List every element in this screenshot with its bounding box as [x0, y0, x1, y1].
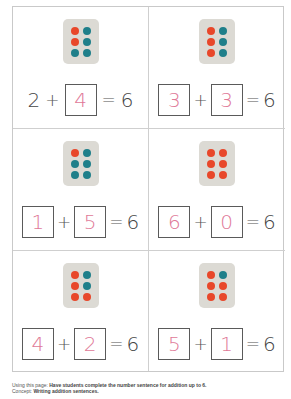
flashcard-grid: 2 + 4 = 6 3 + 3 = 6 — [12, 6, 284, 372]
dot — [207, 149, 215, 157]
die-six-dots — [63, 263, 99, 308]
dot — [83, 149, 91, 157]
dot — [71, 149, 79, 157]
answer-box-addend-1[interactable]: 1 — [22, 206, 54, 238]
plus-sign: + — [193, 214, 207, 231]
dot — [71, 160, 79, 168]
equals-sign: = — [246, 214, 260, 231]
dot — [83, 282, 91, 290]
answer-box-addend-2[interactable]: 2 — [74, 328, 106, 360]
sum: 6 — [263, 334, 276, 354]
dot — [71, 27, 79, 35]
answer-box-addend-1[interactable]: 5 — [158, 328, 190, 360]
plus-sign: + — [193, 92, 207, 109]
number-sentence: 4 + 2 = 6 — [13, 327, 148, 361]
equals-sign: = — [246, 336, 260, 353]
die-six-dots — [199, 141, 235, 186]
dot — [207, 49, 215, 57]
equals-sign: = — [109, 214, 123, 231]
equals-sign: = — [109, 336, 123, 353]
die-six-dots — [199, 19, 235, 64]
teacher-notes: Using this page: Have students complete … — [12, 382, 207, 394]
dot — [71, 38, 79, 46]
die-six-dots — [63, 19, 99, 64]
answer-box-addend-2[interactable]: 0 — [211, 206, 243, 238]
card-6-plus-0: 6 + 0 = 6 — [149, 129, 285, 251]
dot — [83, 38, 91, 46]
sum: 6 — [126, 212, 139, 232]
number-sentence: 2 + 4 = 6 — [13, 83, 148, 117]
dot — [207, 282, 215, 290]
addend-1: 2 — [28, 90, 41, 110]
answer-box-addend-1[interactable]: 4 — [22, 328, 54, 360]
equals-sign: = — [102, 92, 116, 109]
card-3-plus-3: 3 + 3 = 6 — [149, 7, 285, 129]
card-1-plus-5: 1 + 5 = 6 — [13, 129, 149, 251]
dot — [83, 271, 91, 279]
answer-box-addend-2[interactable]: 3 — [211, 84, 243, 116]
dot — [71, 271, 79, 279]
dot — [219, 160, 227, 168]
die-six-dots — [199, 263, 235, 308]
dot — [71, 171, 79, 179]
number-sentence: 6 + 0 = 6 — [149, 205, 285, 239]
dot — [219, 49, 227, 57]
answer-box-addend-1[interactable]: 6 — [158, 206, 190, 238]
plus-sign: + — [57, 214, 71, 231]
dot — [83, 293, 91, 301]
dot — [83, 27, 91, 35]
answer-box-addend-2[interactable]: 4 — [65, 84, 97, 116]
dot — [83, 160, 91, 168]
dot — [83, 171, 91, 179]
dot — [219, 149, 227, 157]
dot — [219, 38, 227, 46]
sum: 6 — [126, 334, 139, 354]
dot — [207, 27, 215, 35]
equals-sign: = — [246, 92, 260, 109]
dot — [207, 271, 215, 279]
concept-label: Concept: — [12, 388, 32, 394]
die-six-dots — [63, 141, 99, 186]
dot — [219, 293, 227, 301]
card-4-plus-2: 4 + 2 = 6 — [13, 251, 149, 371]
sum: 6 — [263, 212, 276, 232]
sum: 6 — [121, 90, 134, 110]
dot — [207, 160, 215, 168]
dot — [207, 293, 215, 301]
answer-box-addend-2[interactable]: 5 — [74, 206, 106, 238]
concept-text: Writing addition sentences. — [33, 388, 98, 394]
dot — [83, 49, 91, 57]
number-sentence: 3 + 3 = 6 — [149, 83, 285, 117]
dot — [71, 49, 79, 57]
dot — [219, 271, 227, 279]
dot — [207, 38, 215, 46]
plus-sign: + — [57, 336, 71, 353]
dot — [219, 171, 227, 179]
card-2-plus-4: 2 + 4 = 6 — [13, 7, 149, 129]
dot — [71, 293, 79, 301]
dot — [219, 27, 227, 35]
answer-box-addend-2[interactable]: 1 — [211, 328, 243, 360]
answer-box-addend-1[interactable]: 3 — [158, 84, 190, 116]
plus-sign: + — [45, 92, 59, 109]
dot — [71, 282, 79, 290]
number-sentence: 1 + 5 = 6 — [13, 205, 148, 239]
plus-sign: + — [193, 336, 207, 353]
sum: 6 — [263, 90, 276, 110]
concept-note: Concept: Writing addition sentences. — [12, 388, 207, 394]
card-5-plus-1: 5 + 1 = 6 — [149, 251, 285, 371]
dot — [207, 171, 215, 179]
number-sentence: 5 + 1 = 6 — [149, 327, 285, 361]
dot — [219, 282, 227, 290]
